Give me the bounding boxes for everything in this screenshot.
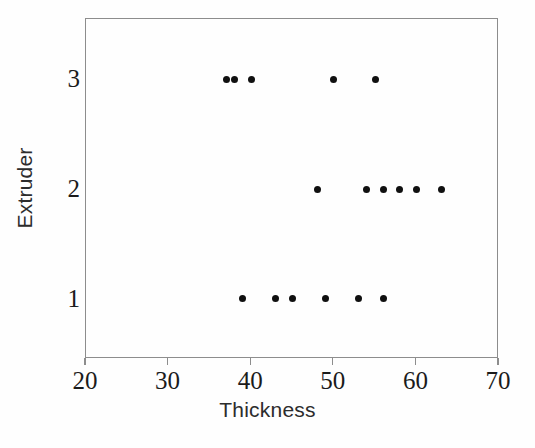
x-axis-tick-label: 60 [385, 368, 445, 393]
y-axis-title: Extruder [13, 148, 37, 229]
data-point [438, 186, 445, 193]
data-point [322, 295, 329, 302]
data-point [330, 76, 337, 83]
data-point [363, 186, 370, 193]
data-point [380, 186, 387, 193]
y-axis-tick-label: 3 [50, 66, 80, 91]
data-point [314, 186, 321, 193]
x-axis-tick [332, 358, 333, 365]
y-axis-tick-label: 2 [50, 176, 80, 201]
data-point [380, 295, 387, 302]
plot-area-frame [85, 18, 498, 358]
x-axis-tick [84, 358, 85, 365]
data-point [239, 295, 246, 302]
x-axis-tick-label: 40 [220, 368, 280, 393]
data-point [223, 76, 230, 83]
y-axis-title-wrap: Extruder [8, 18, 42, 358]
x-axis-title: Thickness [0, 398, 535, 422]
data-point [413, 186, 420, 193]
data-point [355, 295, 362, 302]
x-axis-tick-label: 70 [468, 368, 528, 393]
data-point [372, 76, 379, 83]
x-axis-tick [415, 358, 416, 365]
y-axis-tick-label: 1 [50, 285, 80, 310]
data-point [231, 76, 238, 83]
x-axis-tick-label: 30 [138, 368, 198, 393]
data-point [248, 76, 255, 83]
x-axis-tick [250, 358, 251, 365]
data-point [396, 186, 403, 193]
y-axis: 123 [44, 0, 80, 448]
data-point [272, 295, 279, 302]
x-axis-tick [167, 358, 168, 365]
x-axis-tick [497, 358, 498, 365]
data-point [289, 295, 296, 302]
x-axis-tick-label: 50 [303, 368, 363, 393]
